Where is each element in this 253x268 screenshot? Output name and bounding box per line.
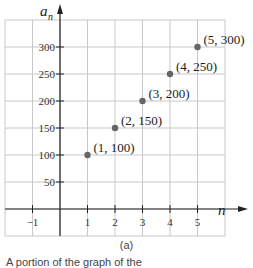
y-tick-label: 100 bbox=[39, 149, 56, 161]
y-tick-label: 200 bbox=[39, 95, 56, 107]
x-tick-label: 4 bbox=[167, 216, 173, 228]
y-tick-label: 300 bbox=[39, 41, 56, 53]
data-points: (1, 100)(2, 150)(3, 200)(4, 250)(5, 300) bbox=[84, 32, 244, 158]
data-point-label: (4, 250) bbox=[176, 59, 217, 74]
data-point-label: (1, 100) bbox=[94, 140, 135, 155]
x-tick-label: 1 bbox=[85, 216, 91, 228]
ticks: −11234550100150200250300 bbox=[27, 41, 201, 228]
data-point bbox=[194, 44, 200, 50]
data-point bbox=[167, 71, 173, 77]
x-tick-label: 3 bbox=[140, 216, 146, 228]
y-axis-label: a bbox=[40, 3, 48, 19]
figure-caption-label: (a) bbox=[0, 239, 253, 251]
data-point-label: (2, 150) bbox=[121, 113, 162, 128]
x-tick-label: 5 bbox=[195, 216, 201, 228]
x-tick-label: 2 bbox=[112, 216, 118, 228]
y-tick-label: 150 bbox=[39, 122, 56, 134]
data-point bbox=[112, 125, 118, 131]
data-point bbox=[139, 98, 145, 104]
y-axis-label-subscript: n bbox=[48, 11, 53, 22]
x-tick-label: −1 bbox=[27, 216, 39, 228]
y-tick-label: 50 bbox=[44, 176, 56, 188]
y-tick-label: 250 bbox=[39, 68, 56, 80]
figure-caption-text: A portion of the graph of the bbox=[6, 256, 142, 268]
data-point bbox=[84, 152, 90, 158]
x-axis-label: n bbox=[218, 202, 226, 218]
data-point-label: (3, 200) bbox=[149, 86, 190, 101]
data-point-label: (5, 300) bbox=[204, 32, 245, 47]
